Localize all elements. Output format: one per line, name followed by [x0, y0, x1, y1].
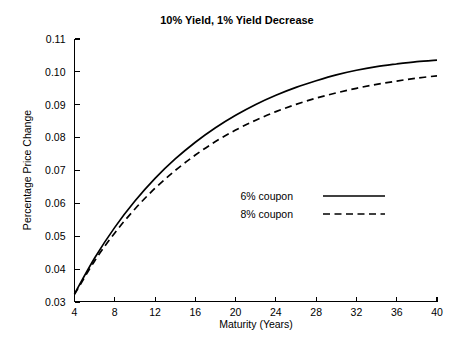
y-tick-label: 0.05 [45, 230, 66, 242]
y-tick-label: 0.03 [45, 296, 66, 308]
y-tick-label: 0.06 [45, 197, 66, 209]
y-tick-label: 0.09 [45, 99, 66, 111]
x-tick-label: 28 [310, 306, 322, 318]
x-tick-label: 32 [351, 306, 363, 318]
y-tick-label: 0.07 [45, 164, 66, 176]
percentage-price-change-line-chart: 10% Yield, 1% Yield Decrease 0.030.040.0… [0, 0, 469, 350]
y-axis-title: Percentage Price Change [21, 110, 33, 230]
x-tick-label: 20 [230, 306, 242, 318]
x-tick-label: 16 [189, 306, 201, 318]
y-tick-label: 0.08 [45, 131, 66, 143]
chart-container: 10% Yield, 1% Yield Decrease 0.030.040.0… [0, 0, 469, 350]
x-tick-label: 12 [149, 306, 161, 318]
y-tick-label: 0.04 [45, 263, 66, 275]
x-tick-label: 40 [431, 306, 443, 318]
chart-background [0, 0, 469, 350]
x-tick-label: 36 [391, 306, 403, 318]
legend-label-2: 8% coupon [240, 208, 293, 220]
x-tick-label: 4 [72, 306, 78, 318]
chart-title: 10% Yield, 1% Yield Decrease [160, 14, 313, 26]
y-tick-label: 0.11 [46, 33, 66, 45]
x-tick-label: 24 [270, 306, 282, 318]
legend-label-1: 6% coupon [240, 190, 293, 202]
y-axis-tick-labels: 0.030.040.050.060.070.080.090.100.11 [45, 33, 66, 308]
x-tick-label: 8 [112, 306, 118, 318]
x-axis-title: Maturity (Years) [219, 318, 293, 330]
y-tick-label: 0.10 [45, 66, 66, 78]
